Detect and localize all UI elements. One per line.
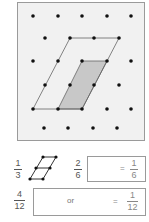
- numerator: 1: [15, 158, 20, 168]
- fraction-two-sixths: 2 6: [74, 159, 82, 180]
- shaded-parallelogram: [58, 61, 107, 109]
- grid-dot: [43, 36, 47, 40]
- grid-dot: [92, 36, 96, 40]
- or-label: or: [67, 196, 74, 205]
- grid-dot: [31, 59, 35, 63]
- denominator: 3: [15, 170, 20, 180]
- grid-dot: [68, 83, 72, 87]
- grid-dot: [117, 36, 121, 40]
- fraction-four-twelfths: 4 12: [14, 190, 25, 211]
- numerator: 1: [130, 190, 135, 200]
- grid-dot: [80, 14, 84, 18]
- grid-dot: [92, 83, 96, 87]
- numerator: 2: [75, 158, 80, 168]
- grid-dot: [56, 59, 60, 63]
- grid-dot: [105, 59, 109, 63]
- denominator: 6: [75, 170, 80, 180]
- grid-dot: [91, 126, 95, 130]
- grid-shapes: [33, 38, 119, 109]
- grid-dot: [66, 126, 70, 130]
- grid-dot: [129, 107, 133, 111]
- denominator: 12: [127, 202, 137, 212]
- grid-dot: [31, 14, 35, 18]
- grid-dot: [42, 126, 46, 130]
- numerator: 4: [17, 189, 22, 199]
- grid-dot: [80, 107, 84, 111]
- fraction-one-third: 1 3: [14, 159, 22, 180]
- denominator: 12: [14, 201, 24, 211]
- equals-sign: =: [120, 164, 125, 173]
- grid-dot: [105, 107, 109, 111]
- grid-dot: [80, 59, 84, 63]
- grid-dot: [56, 14, 60, 18]
- three-parallelogram-figure: [28, 155, 57, 180]
- grid-dot: [115, 126, 119, 130]
- grid-dot: [117, 83, 121, 87]
- grid-dot: [129, 59, 133, 63]
- equals-sign: =: [113, 197, 118, 206]
- denominator: 6: [131, 170, 136, 180]
- fraction-one-twelfth: 1 12: [127, 191, 138, 212]
- grid-dot: [43, 83, 47, 87]
- fraction-one-sixth: 1 6: [130, 159, 138, 180]
- numerator: 1: [131, 158, 136, 168]
- grid-dot: [129, 14, 133, 18]
- grid-dot: [31, 107, 35, 111]
- grid-dot: [105, 14, 109, 18]
- grid-dot: [56, 107, 60, 111]
- grid-dot: [68, 36, 72, 40]
